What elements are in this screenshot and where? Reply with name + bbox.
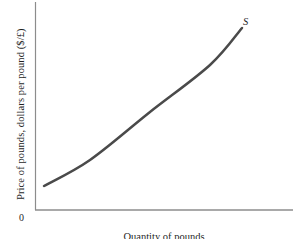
x-axis-label: Quantity of pounds	[35, 231, 293, 239]
supply-curve-label: S	[243, 16, 248, 28]
y-axis-label: Price of pounds, dollars per pound ($/£)	[14, 0, 28, 200]
supply-curve-figure: Price of pounds, dollars per pound ($/£)…	[0, 0, 293, 239]
chart-canvas	[0, 0, 293, 239]
origin-label: 0	[19, 212, 24, 224]
chart-background	[0, 0, 293, 239]
